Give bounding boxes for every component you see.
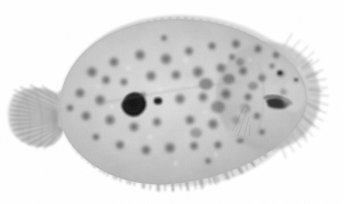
photo-grain-overlay [0,0,344,204]
flatfish-illustration: Grayscale photograph of a flounder seen … [0,0,344,204]
specimen-photo-canvas: Grayscale photograph of a flounder seen … [0,0,344,204]
